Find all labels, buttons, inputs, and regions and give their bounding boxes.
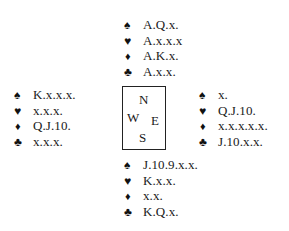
- heart-icon: ♥: [14, 104, 33, 120]
- spade-icon: ♠: [199, 88, 218, 104]
- south-diamonds: x.x.: [143, 188, 163, 204]
- east-hand: ♠x. ♥Q.J.10. ♦x.x.x.x.x. ♣J.10.x.x.: [199, 87, 268, 150]
- compass-east-label: E: [151, 114, 159, 127]
- north-clubs-row: ♣A.x.x.: [124, 64, 182, 80]
- club-icon: ♣: [14, 135, 33, 151]
- compass-box: N W E S: [122, 86, 166, 150]
- diamond-icon: ♦: [124, 189, 143, 205]
- south-hearts: K.x.x.: [143, 173, 176, 189]
- heart-icon: ♥: [124, 34, 143, 50]
- west-clubs: x.x.x.: [33, 134, 63, 150]
- spade-icon: ♠: [124, 158, 143, 174]
- west-spades: K.x.x.x.: [33, 87, 76, 103]
- spade-icon: ♠: [14, 88, 33, 104]
- north-hearts: A.x.x.x: [143, 33, 182, 49]
- north-spades: A.Q.x.: [143, 17, 179, 33]
- north-diamonds-row: ♦A.K.x.: [124, 48, 182, 64]
- compass-north-label: N: [139, 93, 148, 106]
- compass-south-label: S: [139, 131, 146, 144]
- heart-icon: ♥: [124, 174, 143, 190]
- west-hand: ♠K.x.x.x. ♥x.x.x. ♦Q.J.10. ♣x.x.x.: [14, 87, 76, 150]
- diamond-icon: ♦: [199, 119, 218, 135]
- east-spades: x.: [218, 87, 228, 103]
- east-clubs-row: ♣J.10.x.x.: [199, 134, 268, 150]
- west-diamonds-row: ♦Q.J.10.: [14, 118, 76, 134]
- north-spades-row: ♠A.Q.x.: [124, 17, 182, 33]
- east-diamonds: x.x.x.x.x.: [218, 118, 268, 134]
- north-diamonds: A.K.x.: [143, 48, 179, 64]
- east-spades-row: ♠x.: [199, 87, 268, 103]
- club-icon: ♣: [124, 205, 143, 221]
- south-clubs-row: ♣K.Q.x.: [124, 204, 198, 220]
- compass-west-label: W: [127, 111, 139, 124]
- east-clubs: J.10.x.x.: [218, 134, 263, 150]
- east-diamonds-row: ♦x.x.x.x.x.: [199, 118, 268, 134]
- west-spades-row: ♠K.x.x.x.: [14, 87, 76, 103]
- south-hand: ♠J.10.9.x.x. ♥K.x.x. ♦x.x. ♣K.Q.x.: [124, 157, 198, 220]
- west-hearts-row: ♥x.x.x.: [14, 103, 76, 119]
- west-hearts: x.x.x.: [33, 103, 63, 119]
- east-hearts: Q.J.10.: [218, 103, 256, 119]
- north-hand: ♠A.Q.x. ♥A.x.x.x ♦A.K.x. ♣A.x.x.: [124, 17, 182, 80]
- south-spades-row: ♠J.10.9.x.x.: [124, 157, 198, 173]
- south-spades: J.10.9.x.x.: [143, 157, 198, 173]
- north-clubs: A.x.x.: [143, 64, 176, 80]
- spade-icon: ♠: [124, 18, 143, 34]
- north-hearts-row: ♥A.x.x.x: [124, 33, 182, 49]
- south-hearts-row: ♥K.x.x.: [124, 173, 198, 189]
- south-diamonds-row: ♦x.x.: [124, 188, 198, 204]
- west-diamonds: Q.J.10.: [33, 118, 71, 134]
- diamond-icon: ♦: [14, 119, 33, 135]
- heart-icon: ♥: [199, 104, 218, 120]
- diamond-icon: ♦: [124, 49, 143, 65]
- south-clubs: K.Q.x.: [143, 204, 179, 220]
- club-icon: ♣: [124, 65, 143, 81]
- club-icon: ♣: [199, 135, 218, 151]
- west-clubs-row: ♣x.x.x.: [14, 134, 76, 150]
- east-hearts-row: ♥Q.J.10.: [199, 103, 268, 119]
